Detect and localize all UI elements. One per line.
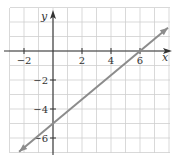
y-tick-label: −4 <box>33 104 48 115</box>
x-axis-label: x <box>162 51 169 64</box>
data-line <box>19 28 168 152</box>
x-tick-label: −2 <box>17 55 32 66</box>
y-axis-label: y <box>40 10 48 23</box>
line-y-equals-five-sixths-x-minus-5 <box>19 28 168 152</box>
axes <box>4 10 172 155</box>
tick-marks: −2246−2−4−6 <box>17 48 144 144</box>
x-tick-label: 4 <box>108 55 114 66</box>
y-tick-label: −2 <box>33 75 48 86</box>
plot-area: −2246−2−4−6 x y <box>0 0 179 157</box>
x-tick-label: 2 <box>79 55 85 66</box>
x-tick-label: 6 <box>137 55 143 66</box>
line-graph: −2246−2−4−6 x y <box>0 0 179 157</box>
